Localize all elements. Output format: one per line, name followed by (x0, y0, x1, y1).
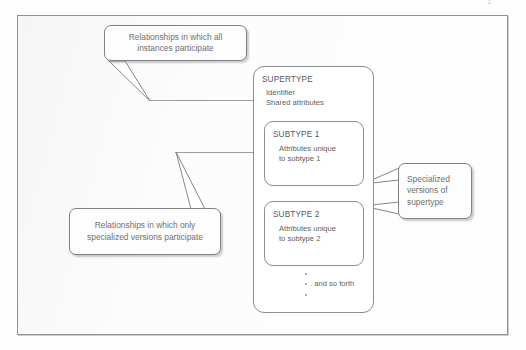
supertype-attribute-shared: Shared attributes (266, 98, 324, 108)
callout-specialized-versions-of-supertype-label: Specialized versions of supertype (399, 174, 471, 209)
ellipsis-dot-icon (305, 283, 307, 285)
entity-box-subtype1: SUBTYPE 1 Attributes unique to subtype 1 (264, 121, 364, 186)
subtype2-title: SUBTYPE 2 (273, 210, 319, 219)
entity-box-subtype2: SUBTYPE 2 Attributes unique to subtype 2 (264, 201, 364, 266)
and-so-forth-label: . and so forth (310, 279, 354, 288)
ellipsis-dot-icon (305, 294, 307, 296)
callout-specialized-versions-of-supertype: Specialized versions of supertype (398, 163, 472, 219)
figure-page: 1 SUPERTYPE Identifier Shared attributes… (0, 0, 526, 350)
callout-specialized-versions-only-label: Relationships in which only specialized … (70, 220, 220, 243)
subtype2-attribute-line1: Attributes unique (279, 224, 336, 234)
callout-all-instances-label: Relationships in which all instances par… (105, 32, 246, 55)
callout-all-instances: Relationships in which all instances par… (104, 25, 247, 61)
ellipsis-dot-icon (305, 273, 307, 275)
and-so-forth-group: . and so forth (295, 271, 365, 305)
callout-specialized-versions-only: Relationships in which only specialized … (69, 208, 221, 255)
subtype1-attribute-line1: Attributes unique (279, 144, 336, 154)
subtype1-title: SUBTYPE 1 (273, 130, 319, 139)
subtype1-attribute-line2: to subtype 1 (279, 154, 320, 164)
subtype2-attribute-line2: to subtype 2 (279, 234, 320, 244)
supertype-attribute-identifier: Identifier (266, 88, 295, 98)
supertype-title: SUPERTYPE (262, 75, 313, 84)
page-number: 1 (487, 0, 491, 6)
